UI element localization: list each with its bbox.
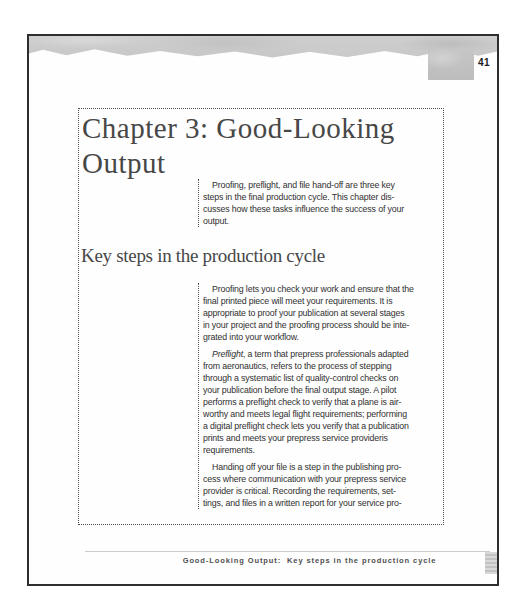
paragraph-preflight-rest: , a term that prepress professionals ada… xyxy=(203,349,409,455)
book-page: 41 Chapter 3: Good-Looking Output Proofi… xyxy=(27,34,499,586)
intro-block: Proofing, preflight, and file hand-off a… xyxy=(198,179,404,227)
page-number: 41 xyxy=(478,57,490,68)
paragraph-handoff: Handing off your file is a step in the p… xyxy=(203,461,414,509)
paragraph-preflight: Preflight, a term that prepress professi… xyxy=(203,348,414,456)
body-paragraphs: Proofing lets you check your work and en… xyxy=(198,283,414,509)
header-corner-block xyxy=(428,49,474,80)
footer-rule xyxy=(85,551,490,552)
paragraph-proofing: Proofing lets you check your work and en… xyxy=(203,283,414,343)
footer-edge-tab xyxy=(485,552,497,574)
chapter-title: Chapter 3: Good-Looking Output xyxy=(82,111,395,181)
running-footer: Good-Looking Output: Key steps in the pr… xyxy=(107,556,512,565)
section-heading: Key steps in the production cycle xyxy=(81,245,325,267)
torn-paper-band xyxy=(29,36,497,58)
intro-paragraph: Proofing, preflight, and file hand-off a… xyxy=(203,179,404,227)
preflight-term: Preflight xyxy=(212,349,243,359)
chapter-content-frame: Chapter 3: Good-Looking Output Proofing,… xyxy=(78,108,444,525)
